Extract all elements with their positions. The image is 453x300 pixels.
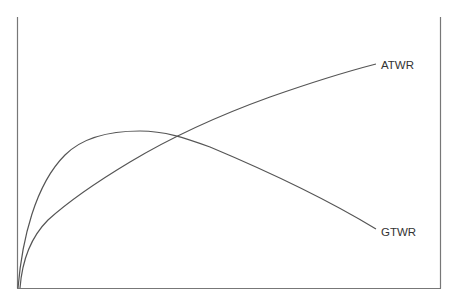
- series-atwr-label: ATWR: [381, 59, 414, 71]
- line-chart: ATWR GTWR: [0, 0, 453, 300]
- axes: [17, 17, 441, 289]
- series-gtwr-label: GTWR: [381, 226, 416, 238]
- series-gtwr-line: [18, 131, 376, 288]
- series-atwr-line: [20, 64, 376, 288]
